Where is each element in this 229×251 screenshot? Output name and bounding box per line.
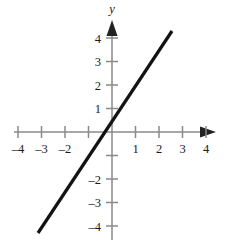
y-tick-label--4: –4 (88, 220, 102, 234)
x-tick-label-4: 4 (203, 142, 210, 156)
graph-figure: –4 –3 –2 1 2 3 4 4 (0, 0, 229, 251)
x-tick-label-1: 1 (132, 142, 138, 156)
y-tick-label-2: 2 (95, 79, 101, 93)
x-tick-label--3: –3 (34, 142, 48, 156)
y-axis-label: y (107, 2, 115, 16)
y-tick-label-4: 4 (95, 32, 102, 46)
y-tick-label-1: 1 (95, 102, 101, 116)
y-tick-label--3: –3 (88, 196, 102, 210)
x-tick-label--2: –2 (58, 142, 72, 156)
y-tick-label--2: –2 (88, 173, 102, 187)
x-tick-label-3: 3 (179, 142, 185, 156)
x-tick-label-2: 2 (156, 142, 162, 156)
coordinate-plane-plot: –4 –3 –2 1 2 3 4 4 (0, 0, 229, 251)
y-tick-label-3: 3 (95, 55, 101, 69)
x-tick-label--4: –4 (11, 142, 25, 156)
